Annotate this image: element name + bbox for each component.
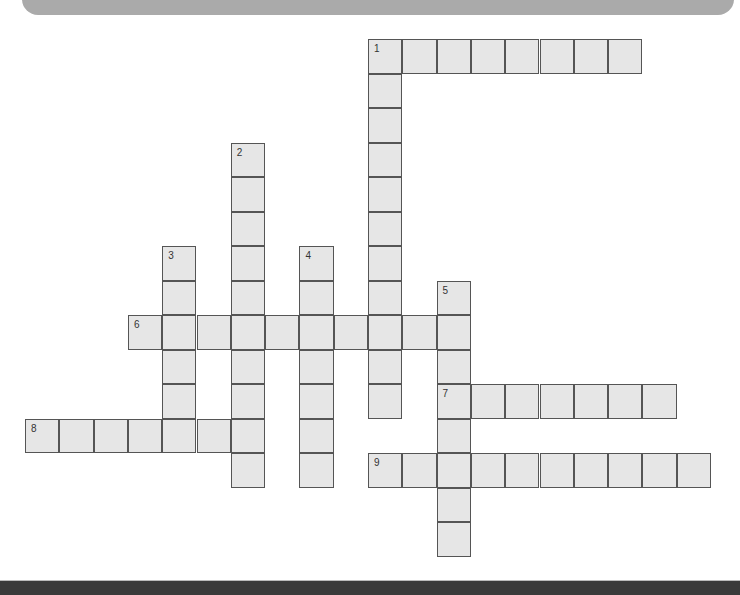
crossword-cell[interactable] bbox=[540, 453, 574, 488]
letter-input[interactable] bbox=[369, 178, 401, 211]
crossword-cell[interactable] bbox=[608, 453, 642, 488]
crossword-cell[interactable] bbox=[608, 384, 642, 419]
crossword-cell[interactable] bbox=[642, 384, 676, 419]
crossword-cell[interactable] bbox=[437, 39, 471, 74]
crossword-cell[interactable] bbox=[265, 315, 299, 350]
letter-input[interactable] bbox=[300, 385, 332, 418]
crossword-cell[interactable] bbox=[231, 177, 265, 212]
crossword-cell[interactable] bbox=[299, 350, 333, 385]
letter-input[interactable] bbox=[369, 454, 401, 487]
letter-input[interactable] bbox=[198, 420, 230, 453]
letter-input[interactable] bbox=[129, 316, 161, 349]
crossword-cell[interactable] bbox=[162, 419, 196, 454]
crossword-cell[interactable]: 6 bbox=[128, 315, 162, 350]
letter-input[interactable] bbox=[369, 316, 401, 349]
letter-input[interactable] bbox=[438, 489, 470, 522]
letter-input[interactable] bbox=[575, 454, 607, 487]
crossword-cell[interactable] bbox=[642, 453, 676, 488]
crossword-cell[interactable] bbox=[231, 281, 265, 316]
letter-input[interactable] bbox=[163, 351, 195, 384]
letter-input[interactable] bbox=[369, 282, 401, 315]
crossword-cell[interactable] bbox=[231, 315, 265, 350]
crossword-cell[interactable] bbox=[437, 488, 471, 523]
crossword-cell[interactable]: 4 bbox=[299, 246, 333, 281]
letter-input[interactable] bbox=[472, 454, 504, 487]
letter-input[interactable] bbox=[232, 316, 264, 349]
crossword-cell[interactable] bbox=[299, 281, 333, 316]
letter-input[interactable] bbox=[163, 385, 195, 418]
letter-input[interactable] bbox=[232, 282, 264, 315]
letter-input[interactable] bbox=[300, 247, 332, 280]
letter-input[interactable] bbox=[335, 316, 367, 349]
crossword-cell[interactable] bbox=[368, 350, 402, 385]
letter-input[interactable] bbox=[541, 454, 573, 487]
letter-input[interactable] bbox=[369, 144, 401, 177]
letter-input[interactable] bbox=[506, 454, 538, 487]
letter-input[interactable] bbox=[163, 282, 195, 315]
letter-input[interactable] bbox=[643, 385, 675, 418]
letter-input[interactable] bbox=[232, 247, 264, 280]
letter-input[interactable] bbox=[95, 420, 127, 453]
letter-input[interactable] bbox=[300, 351, 332, 384]
letter-input[interactable] bbox=[232, 144, 264, 177]
crossword-cell[interactable] bbox=[505, 453, 539, 488]
crossword-cell[interactable] bbox=[368, 143, 402, 178]
letter-input[interactable] bbox=[369, 75, 401, 108]
letter-input[interactable] bbox=[575, 40, 607, 73]
letter-input[interactable] bbox=[403, 454, 435, 487]
crossword-cell[interactable] bbox=[677, 453, 711, 488]
letter-input[interactable] bbox=[541, 385, 573, 418]
letter-input[interactable] bbox=[232, 213, 264, 246]
crossword-cell[interactable] bbox=[402, 315, 436, 350]
crossword-cell[interactable] bbox=[574, 39, 608, 74]
letter-input[interactable] bbox=[438, 385, 470, 418]
crossword-cell[interactable] bbox=[402, 39, 436, 74]
crossword-cell[interactable] bbox=[231, 246, 265, 281]
crossword-cell[interactable]: 9 bbox=[368, 453, 402, 488]
crossword-cell[interactable] bbox=[402, 453, 436, 488]
crossword-cell[interactable] bbox=[94, 419, 128, 454]
letter-input[interactable] bbox=[232, 351, 264, 384]
letter-input[interactable] bbox=[163, 247, 195, 280]
crossword-cell[interactable] bbox=[231, 350, 265, 385]
crossword-cell[interactable] bbox=[368, 315, 402, 350]
crossword-cell[interactable] bbox=[540, 39, 574, 74]
crossword-cell[interactable] bbox=[608, 39, 642, 74]
letter-input[interactable] bbox=[266, 316, 298, 349]
crossword-cell[interactable] bbox=[540, 384, 574, 419]
letter-input[interactable] bbox=[60, 420, 92, 453]
letter-input[interactable] bbox=[369, 351, 401, 384]
letter-input[interactable] bbox=[403, 316, 435, 349]
crossword-cell[interactable] bbox=[299, 453, 333, 488]
letter-input[interactable] bbox=[300, 316, 332, 349]
letter-input[interactable] bbox=[300, 282, 332, 315]
crossword-cell[interactable] bbox=[197, 315, 231, 350]
letter-input[interactable] bbox=[26, 420, 58, 453]
letter-input[interactable] bbox=[541, 40, 573, 73]
crossword-cell[interactable]: 7 bbox=[437, 384, 471, 419]
crossword-cell[interactable] bbox=[162, 281, 196, 316]
letter-input[interactable] bbox=[369, 109, 401, 142]
crossword-cell[interactable] bbox=[437, 419, 471, 454]
letter-input[interactable] bbox=[232, 420, 264, 453]
crossword-cell[interactable] bbox=[128, 419, 162, 454]
crossword-cell[interactable] bbox=[437, 315, 471, 350]
letter-input[interactable] bbox=[575, 385, 607, 418]
crossword-cell[interactable]: 1 bbox=[368, 39, 402, 74]
letter-input[interactable] bbox=[403, 40, 435, 73]
crossword-cell[interactable] bbox=[368, 246, 402, 281]
crossword-cell[interactable] bbox=[505, 384, 539, 419]
letter-input[interactable] bbox=[129, 420, 161, 453]
letter-input[interactable] bbox=[369, 385, 401, 418]
crossword-cell[interactable]: 8 bbox=[25, 419, 59, 454]
crossword-cell[interactable] bbox=[334, 315, 368, 350]
letter-input[interactable] bbox=[232, 385, 264, 418]
letter-input[interactable] bbox=[506, 40, 538, 73]
crossword-cell[interactable] bbox=[368, 74, 402, 109]
letter-input[interactable] bbox=[198, 316, 230, 349]
crossword-cell[interactable] bbox=[162, 384, 196, 419]
crossword-cell[interactable] bbox=[59, 419, 93, 454]
crossword-cell[interactable] bbox=[505, 39, 539, 74]
letter-input[interactable] bbox=[643, 454, 675, 487]
letter-input[interactable] bbox=[300, 420, 332, 453]
